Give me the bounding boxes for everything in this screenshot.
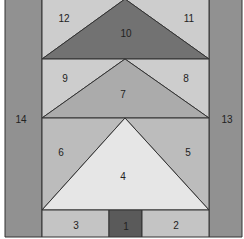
quilt-block-diagram: 12 11 10 9 8 7 14 13 6 5 4 3 1 2 [0, 0, 244, 239]
label-11: 11 [184, 13, 195, 24]
label-10: 10 [120, 28, 132, 39]
label-8: 8 [183, 73, 189, 84]
label-7: 7 [120, 89, 126, 100]
label-4: 4 [120, 171, 126, 182]
label-12: 12 [58, 13, 70, 24]
label-1: 1 [123, 221, 129, 232]
label-3: 3 [73, 220, 79, 231]
label-9: 9 [62, 73, 68, 84]
label-2: 2 [173, 220, 179, 231]
label-5: 5 [185, 147, 191, 158]
label-6: 6 [58, 147, 64, 158]
label-13: 13 [221, 114, 233, 125]
label-14: 14 [15, 114, 27, 125]
